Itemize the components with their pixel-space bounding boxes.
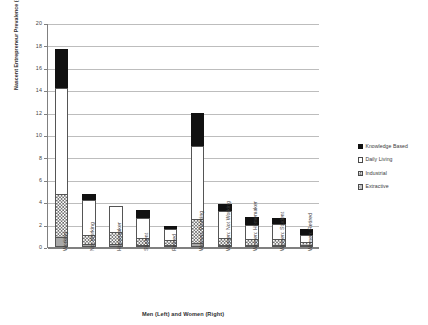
legend-swatch-knowledge-based	[358, 144, 363, 149]
stacked-bar-chart: Nascent Entrepreneur Prevalence (#/100 A…	[0, 0, 428, 325]
x-axis-tick-label: Women: Retired	[308, 213, 313, 251]
legend-item: Industrial	[358, 170, 426, 177]
x-axis-tick-label: Women: Homemaker	[253, 201, 258, 251]
legend-swatch-daily-living	[358, 157, 363, 162]
x-axis-tick-label: Women: Working	[199, 211, 204, 251]
legend-item: Extractive	[358, 184, 426, 191]
x-axis-tick-label: Women: Not Working	[226, 201, 231, 251]
x-axis-tick-label: Working	[63, 232, 68, 251]
x-axis-tick-label: Women: Student	[280, 212, 285, 251]
x-axis-title: Men (Left) and Women (Right)	[47, 311, 319, 317]
x-axis-tick-label: Homemaker	[117, 222, 122, 251]
legend-label: Daily Living	[365, 157, 392, 162]
x-axis-tick-label: Retired	[172, 234, 177, 251]
legend-item: Daily Living	[358, 157, 426, 164]
legend-label: Industrial	[365, 171, 387, 176]
x-axis-tick-label: Not Working	[90, 222, 95, 251]
legend-item: Knowledge Based	[358, 143, 426, 150]
legend-swatch-industrial	[358, 171, 363, 176]
legend-label: Knowledge Based	[365, 144, 408, 149]
x-axis-tick-label: Student	[144, 233, 149, 251]
chart-legend: Knowledge BasedDaily LivingIndustrialExt…	[358, 143, 426, 197]
legend-label: Extractive	[365, 184, 388, 189]
legend-swatch-extractive	[358, 184, 363, 189]
